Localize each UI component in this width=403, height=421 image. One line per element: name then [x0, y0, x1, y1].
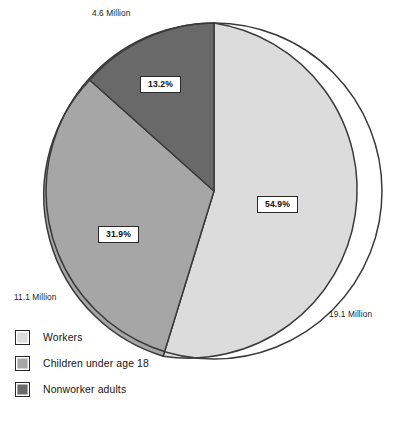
legend-item-children[interactable]: Children under age 18 [15, 350, 149, 376]
value-label-children: 11.1 Million [14, 292, 57, 302]
percent-label-children: 31.9% [98, 226, 139, 243]
percent-label-workers: 54.9% [257, 196, 298, 213]
source-note [22, 413, 382, 421]
legend-label-nonworker-adults: Nonworker adults [43, 384, 126, 395]
legend-item-workers[interactable]: Workers [15, 324, 149, 350]
legend: Workers Children under age 18 Nonworker … [15, 324, 149, 402]
percent-label-nonworker-adults: 13.2% [140, 76, 181, 93]
value-label-workers: 19.1 Million [329, 309, 372, 319]
legend-swatch-workers [15, 330, 30, 345]
value-label-nonworker-adults: 4.6 Million [92, 8, 130, 18]
legend-label-children: Children under age 18 [43, 358, 149, 369]
legend-swatch-nonworker-adults [15, 382, 30, 397]
legend-item-nonworker-adults[interactable]: Nonworker adults [15, 376, 149, 402]
pie-chart-figure: 4.6 Million 11.1 Million 19.1 Million 13… [0, 0, 403, 421]
legend-swatch-children [15, 356, 30, 371]
legend-label-workers: Workers [43, 332, 83, 343]
